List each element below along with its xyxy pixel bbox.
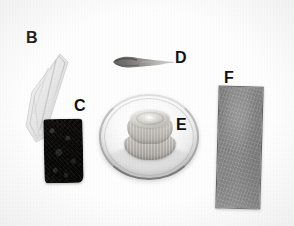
figure-image: B C D E F xyxy=(0,0,294,226)
specimen-e-petri-dish-with-cap xyxy=(99,94,199,180)
label-e: E xyxy=(176,117,187,133)
dish-inner-rim xyxy=(104,98,194,176)
label-d: D xyxy=(175,50,187,66)
label-b: B xyxy=(26,30,38,46)
specimen-c-dark-foam-sponge xyxy=(43,119,83,184)
label-f: F xyxy=(224,70,234,86)
specimen-f-grey-rectangular-strip xyxy=(215,85,263,209)
specimen-d-tapered-brush-swab xyxy=(108,52,178,74)
label-c: C xyxy=(74,98,86,114)
